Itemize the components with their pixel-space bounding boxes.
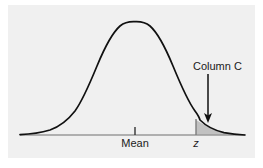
z-label: z xyxy=(192,137,199,149)
normal-distribution-figure: Column C Mean z xyxy=(0,0,263,168)
mean-label: Mean xyxy=(121,137,149,149)
distribution-chart-svg: Column C Mean z xyxy=(0,0,263,168)
column-c-label: Column C xyxy=(193,60,242,72)
